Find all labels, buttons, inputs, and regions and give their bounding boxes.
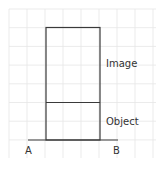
object-label: Object: [106, 116, 139, 127]
point-a-label: A: [25, 145, 32, 156]
grid: [9, 9, 156, 158]
point-b-label: B: [113, 145, 120, 156]
image-label: Image: [106, 58, 137, 69]
